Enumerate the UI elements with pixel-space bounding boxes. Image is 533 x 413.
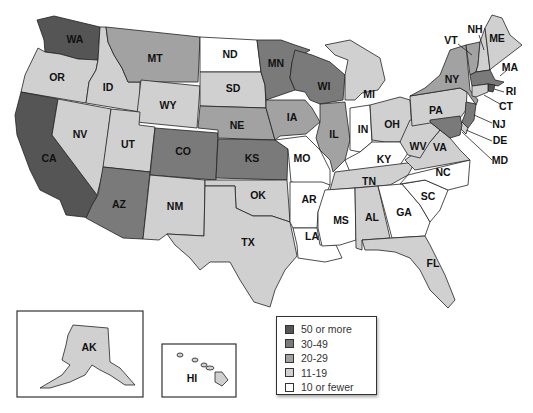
label-NM: NM (167, 200, 184, 212)
legend-item: 20-29 (285, 351, 376, 366)
callout-nj (474, 115, 492, 123)
label-MA: MA (502, 61, 519, 73)
label-SC: SC (421, 190, 436, 202)
label-WV: WV (410, 140, 427, 152)
label-NH: NH (467, 23, 482, 35)
label-OK: OK (250, 189, 266, 201)
label-VT: VT (444, 34, 458, 46)
label-VA: VA (433, 141, 447, 153)
label-LA: LA (305, 230, 319, 242)
callout-ct (484, 95, 500, 104)
legend-label: 30-49 (301, 338, 328, 350)
label-TN: TN (362, 175, 376, 187)
callout-md (462, 132, 492, 160)
label-NE: NE (230, 119, 245, 131)
label-MD: MD (492, 154, 509, 166)
label-IN: IN (358, 123, 369, 135)
legend-item: 10 or fewer (285, 380, 376, 395)
label-RI: RI (506, 85, 517, 97)
label-SD: SD (226, 82, 241, 94)
label-ME: ME (489, 32, 505, 44)
label-AK: AK (81, 341, 97, 353)
label-MS: MS (333, 214, 349, 226)
label-UT: UT (121, 138, 136, 150)
label-CO: CO (175, 145, 191, 157)
label-NJ: NJ (492, 118, 506, 130)
label-AR: AR (301, 193, 317, 205)
hawaii-inset-box (162, 344, 236, 397)
label-MT: MT (147, 52, 163, 64)
legend-swatch (285, 325, 294, 334)
legend: 50 or more 30-49 20-29 11-19 10 or fewer (276, 316, 377, 395)
state-FL[interactable] (362, 236, 455, 308)
label-MN: MN (268, 57, 284, 69)
label-FL: FL (427, 257, 440, 269)
legend-swatch (285, 339, 294, 348)
label-HI: HI (187, 372, 198, 384)
callout-ri (494, 89, 504, 92)
legend-item: 50 or more (285, 322, 376, 337)
label-KY: KY (377, 153, 392, 165)
state-MA[interactable] (470, 70, 504, 86)
label-CA: CA (41, 152, 57, 164)
legend-label: 50 or more (301, 323, 352, 335)
label-AL: AL (365, 211, 380, 223)
legend-swatch (285, 354, 294, 363)
label-IL: IL (329, 128, 339, 140)
state-WI[interactable] (290, 50, 345, 104)
legend-swatch (285, 368, 294, 377)
label-WA: WA (67, 33, 84, 45)
label-IA: IA (287, 111, 298, 123)
legend-label: 20-29 (301, 352, 328, 364)
label-MO: MO (294, 152, 311, 164)
label-MI: MI (363, 88, 375, 100)
legend-item: 30-49 (285, 337, 376, 352)
legend-label: 11-19 (301, 367, 327, 379)
legend-item: 11-19 (285, 366, 376, 381)
label-OR: OR (49, 71, 65, 83)
label-WI: WI (318, 80, 331, 92)
label-TX: TX (241, 236, 254, 248)
label-ND: ND (222, 48, 238, 60)
state-CT[interactable] (472, 84, 488, 97)
label-CT: CT (499, 100, 514, 112)
label-OH: OH (384, 118, 400, 130)
label-ID: ID (103, 81, 114, 93)
label-WY: WY (160, 99, 177, 111)
label-GA: GA (396, 206, 412, 218)
label-PA: PA (429, 104, 443, 116)
us-choropleth-map: WA OR CA ID NV MT WY UT AZ CO NM ND SD N… (0, 0, 533, 413)
label-NC: NC (435, 166, 451, 178)
state-RI[interactable] (488, 84, 495, 92)
legend-label: 10 or fewer (301, 381, 354, 393)
legend-swatch (285, 383, 294, 392)
label-DE: DE (493, 134, 508, 146)
label-NV: NV (73, 128, 88, 140)
label-KS: KS (245, 152, 260, 164)
label-AZ: AZ (112, 198, 127, 210)
label-NY: NY (445, 73, 460, 85)
